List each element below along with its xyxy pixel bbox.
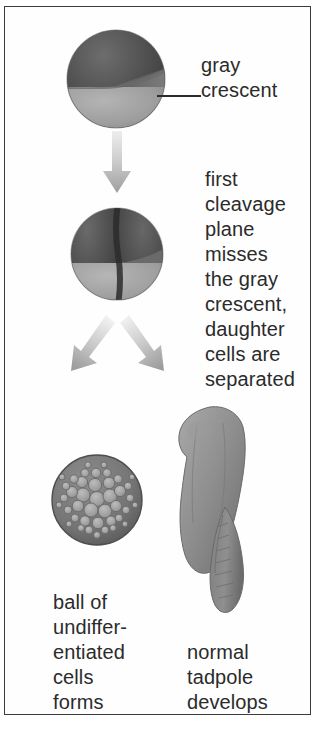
label-ball-of-undifferentiated-cells: ball of undiffer- entiated cells forms: [53, 590, 127, 715]
down-right-arrow-icon: [117, 313, 179, 389]
tadpole-illustration: [165, 403, 257, 617]
figure-frame: gray crescent first cleavage plane misse…: [4, 6, 311, 715]
down-left-arrow-icon: [59, 313, 119, 389]
down-arrow-icon: [101, 131, 133, 197]
label-normal-tadpole-develops: normal tadpole develops: [187, 640, 268, 715]
gray-crescent-leader-line: [157, 95, 201, 97]
label-first-cleavage-plane: first cleavage plane misses the gray cre…: [205, 167, 295, 392]
zygote-illustration: [63, 25, 169, 133]
two-cell-embryo-illustration: [67, 203, 167, 305]
biology-diagram: gray crescent first cleavage plane misse…: [0, 0, 317, 729]
blastula-illustration: [47, 450, 147, 550]
label-gray-crescent: gray crescent: [201, 53, 277, 103]
